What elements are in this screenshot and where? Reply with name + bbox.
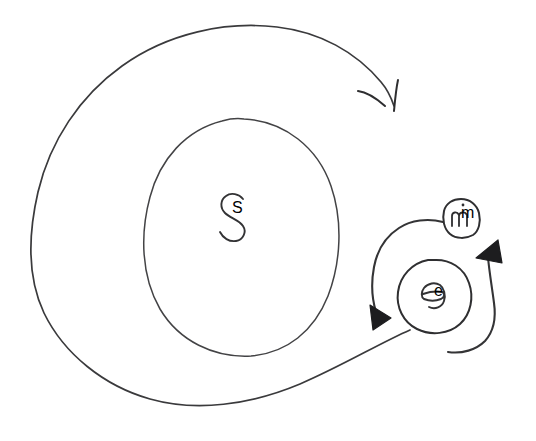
right-arc-arrow xyxy=(448,240,502,353)
diagram-canvas: Hand-drawn spiral diagram with labelled … xyxy=(0,0,536,441)
right-arc-arrowhead-icon xyxy=(476,240,502,263)
outer-spiral-stroke xyxy=(31,26,410,406)
e-circle: e xyxy=(398,260,472,333)
label-s-text: S xyxy=(232,199,243,216)
m-blob: m xyxy=(443,199,480,238)
spiral-arrowhead-open-v-icon xyxy=(358,80,398,111)
label-m-text: m xyxy=(461,204,474,221)
inner-oval: S xyxy=(144,119,339,357)
left-arc-stroke xyxy=(372,220,443,312)
outer-spiral xyxy=(31,26,410,406)
left-arc-arrowhead-icon xyxy=(370,305,391,330)
sketch-surface: S e m xyxy=(0,0,536,441)
left-arc-arrow xyxy=(370,220,443,330)
label-e-text: e xyxy=(434,282,443,299)
